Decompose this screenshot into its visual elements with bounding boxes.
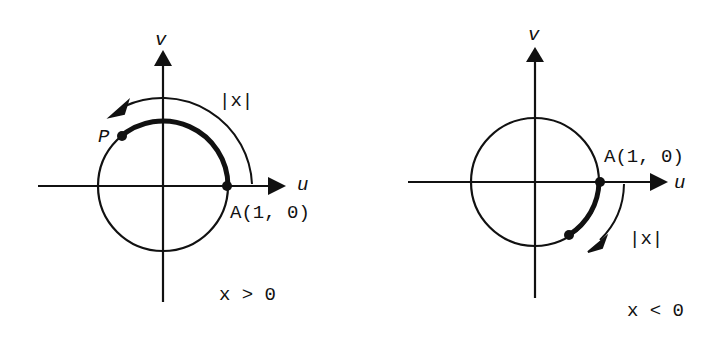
v-axis-label: v: [155, 29, 167, 51]
diagram-positive: v u A(1, 0) P |x| x > 0: [38, 29, 310, 306]
arc-length-label: |x|: [219, 90, 253, 112]
u-axis-arrowhead: [650, 173, 668, 191]
point-p-dot: [117, 131, 127, 141]
point-a-dot: [222, 181, 232, 191]
condition-label: x < 0: [627, 300, 684, 322]
point-a-label: A(1, 0): [230, 202, 310, 224]
arc-length-label: |x|: [629, 228, 663, 250]
v-axis-arrowhead: [154, 50, 172, 66]
u-axis-label: u: [674, 172, 685, 194]
point-a-label: A(1, 0): [604, 146, 684, 168]
unit-circle-figure: v u A(1, 0) P |x| x > 0 v u A(1, 0) |x| …: [0, 0, 717, 337]
diagram-negative: v u A(1, 0) |x| x < 0: [408, 24, 685, 322]
condition-label: x > 0: [219, 284, 276, 306]
point-p-label: P: [98, 126, 110, 148]
rotation-arrowhead: [110, 101, 128, 117]
rotation-arrow-arc: [600, 184, 624, 240]
u-axis-label: u: [297, 174, 308, 196]
arc-segment-thick: [120, 121, 229, 186]
point-a-dot: [595, 177, 605, 187]
v-axis-arrowhead: [526, 47, 544, 62]
arc-segment-thick: [569, 182, 599, 235]
rotation-arrowhead: [588, 237, 606, 252]
v-axis-label: v: [528, 24, 540, 46]
u-axis-arrowhead: [268, 177, 286, 195]
point-end-dot: [564, 230, 574, 240]
